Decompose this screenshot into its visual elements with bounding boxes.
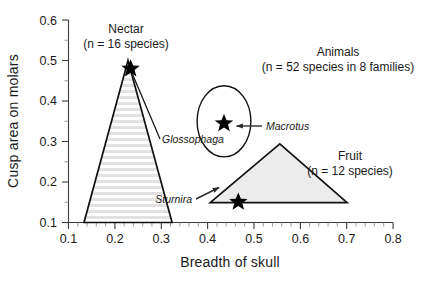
species-label-glossophaga: Glossophaga bbox=[162, 133, 224, 145]
y-tick-label: 0.2 bbox=[40, 175, 57, 189]
x-tick-label: 0.5 bbox=[245, 232, 262, 246]
y-axis-tick-labels: 0.1 0.2 0.3 0.4 0.5 0.6 bbox=[40, 14, 57, 230]
x-tick-label: 0.2 bbox=[106, 232, 123, 246]
group-label-animals: Animals (n = 52 species in 8 families) bbox=[262, 45, 414, 74]
group-label-nectar-title: Nectar bbox=[108, 22, 143, 36]
y-tick-label: 0.4 bbox=[40, 94, 57, 108]
chart-figure: 0.1 0.2 0.3 0.4 0.5 0.6 0.1 0.2 0.3 0.4 … bbox=[0, 0, 439, 282]
x-axis-title: Breadth of skull bbox=[180, 254, 280, 270]
y-axis-minor-ticks bbox=[65, 40, 69, 202]
group-label-fruit-count: (n = 12 species) bbox=[307, 164, 393, 178]
x-tick-label: 0.6 bbox=[292, 232, 309, 246]
y-tick-label: 0.5 bbox=[40, 54, 57, 68]
x-axis-major-ticks bbox=[69, 223, 394, 230]
x-tick-label: 0.3 bbox=[153, 232, 170, 246]
x-tick-label: 0.1 bbox=[60, 232, 77, 246]
group-label-animals-count: (n = 52 species in 8 families) bbox=[262, 60, 414, 74]
group-label-fruit-title: Fruit bbox=[338, 149, 363, 163]
x-axis-tick-labels: 0.1 0.2 0.3 0.4 0.5 0.6 0.7 0.8 bbox=[60, 232, 402, 246]
group-label-animals-title: Animals bbox=[317, 45, 360, 59]
species-label-macrotus: Macrotus bbox=[266, 120, 310, 132]
x-tick-label: 0.8 bbox=[384, 232, 401, 246]
y-axis-title: Cusp area on molars bbox=[5, 54, 21, 188]
group-label-nectar-count: (n = 16 species) bbox=[83, 37, 169, 51]
y-tick-label: 0.6 bbox=[40, 14, 57, 28]
group-label-fruit: Fruit (n = 12 species) bbox=[307, 149, 393, 178]
x-tick-label: 0.4 bbox=[199, 232, 216, 246]
scatter-plot-svg: 0.1 0.2 0.3 0.4 0.5 0.6 0.1 0.2 0.3 0.4 … bbox=[0, 0, 439, 282]
species-label-sturnira: Sturnira bbox=[155, 193, 192, 205]
y-tick-label: 0.1 bbox=[40, 216, 57, 230]
y-tick-label: 0.3 bbox=[40, 135, 57, 149]
x-tick-label: 0.7 bbox=[338, 232, 355, 246]
group-label-nectar: Nectar (n = 16 species) bbox=[83, 22, 169, 51]
